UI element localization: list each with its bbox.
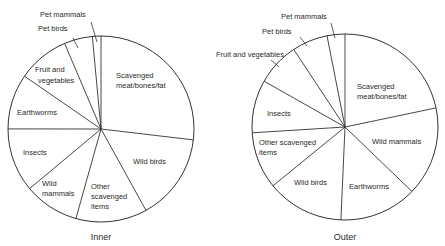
label-inner-wild-birds: Wild birds: [133, 157, 166, 166]
label-inner-other-line1: Other: [91, 182, 110, 191]
label-outer-wild-birds: Wild birds: [294, 178, 327, 187]
label-outer-pet-birds: Pet birds: [262, 27, 292, 36]
slice-boundary-line: [92, 36, 101, 129]
label-inner-other-line2: scavenged: [91, 192, 127, 201]
label-inner-pet-mammals: Pet mammals: [40, 10, 86, 19]
slice-boundary-line: [252, 127, 345, 133]
slice-boundaries-outer: [252, 34, 436, 220]
label-inner-pet-birds: Pet birds: [38, 24, 68, 33]
leader-line-outer-pet-mammals: [331, 23, 335, 38]
label-outer-wild-mammals: Wild mammals: [372, 137, 421, 146]
slice-boundary-line: [30, 129, 101, 189]
label-inner-scavenged-line1: Scavenged: [116, 71, 154, 80]
label-outer-scavenged-line1: Scavenged: [357, 82, 395, 91]
slice-boundary-line: [264, 81, 345, 127]
label-inner-wild-mammals-line1: Wild: [42, 179, 57, 188]
label-outer-fruit: Fruit and vegetables: [216, 50, 284, 59]
label-inner-fruit-line1: Fruit and: [35, 65, 65, 74]
label-inner-wild-mammals-line2: mammals: [42, 189, 75, 198]
slice-boundary-line: [341, 127, 345, 220]
label-inner-other-line3: items: [91, 202, 109, 211]
label-outer-pet-mammals: Pet mammals: [281, 12, 327, 21]
pie-chart-inner: Scavenged meat/bones/fat Wild birds Othe…: [8, 10, 194, 242]
slice-boundary-line: [345, 108, 436, 127]
label-outer-other-line2: items: [259, 148, 277, 157]
slice-boundary-line: [273, 127, 345, 186]
label-outer-earthworms: Earthworms: [349, 182, 389, 191]
slice-boundary-line: [101, 129, 193, 140]
pie-charts-svg: Scavenged meat/bones/fat Wild birds Othe…: [0, 0, 445, 246]
label-inner-scavenged-line2: meat/bones/fat: [116, 81, 167, 90]
label-outer-insects: Insects: [267, 109, 291, 118]
chart-title-inner: Inner: [91, 232, 112, 242]
label-inner-insects: Insects: [23, 148, 47, 157]
label-inner-fruit-line2: vegetables: [38, 76, 75, 85]
label-outer-scavenged-line2: meat/bones/fat: [357, 92, 408, 101]
pie-chart-outer: Scavenged meat/bones/fat Wild mammals Ea…: [216, 12, 438, 242]
figure: Scavenged meat/bones/fat Wild birds Othe…: [0, 0, 445, 246]
chart-title-outer: Outer: [334, 232, 357, 242]
label-inner-earthworms: Earthworms: [17, 108, 57, 117]
label-outer-other-line1: Other scavenged: [259, 138, 316, 147]
leader-line-inner-pet-mammals: [91, 22, 97, 42]
